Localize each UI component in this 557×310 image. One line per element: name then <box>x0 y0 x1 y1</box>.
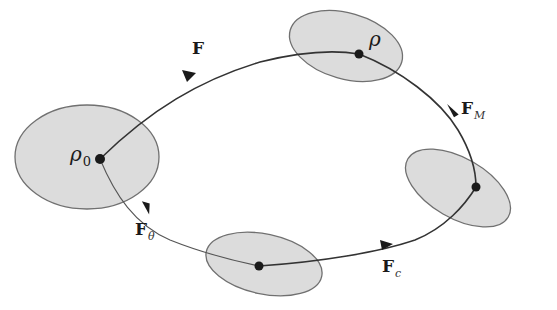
node-rho0 <box>95 154 105 164</box>
Ftheta-symbol: F <box>135 219 147 239</box>
node-rho <box>355 50 364 59</box>
ellipse-bottom <box>200 222 328 305</box>
arrowhead-F-icon <box>182 70 196 82</box>
label-rho: ρ <box>369 29 381 49</box>
rho0-symbol: ρ <box>70 142 82 166</box>
rho0-subscript: 0 <box>83 154 91 169</box>
Fc-symbol: F <box>382 256 394 276</box>
Ftheta-subscript: θ <box>148 230 155 243</box>
diagram-canvas: ρ0 ρ F FM Fc Fθ <box>0 0 557 310</box>
label-F: F <box>192 40 204 57</box>
node-right <box>472 183 481 192</box>
rho-symbol: ρ <box>369 27 381 51</box>
label-rho0: ρ0 <box>70 144 91 164</box>
label-Ftheta: Fθ <box>135 221 155 238</box>
ellipse-right <box>393 133 523 243</box>
arrowhead-Ftheta-icon <box>140 201 151 214</box>
ellipse-rho <box>281 0 411 94</box>
node-bottom <box>255 262 264 271</box>
label-FM: FM <box>461 100 485 117</box>
arrowhead-FM-icon <box>447 103 459 118</box>
FM-symbol: F <box>461 98 473 118</box>
Fc-subscript: c <box>395 267 401 280</box>
label-Fc: Fc <box>382 258 401 275</box>
FM-subscript: M <box>474 109 485 122</box>
F-symbol: F <box>192 38 204 58</box>
